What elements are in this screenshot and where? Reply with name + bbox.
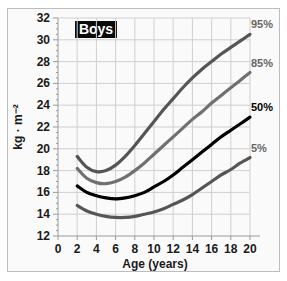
y-tick-label: 30 bbox=[37, 33, 51, 47]
percentile-line-85 bbox=[77, 73, 250, 184]
x-tick-label: 14 bbox=[186, 242, 200, 256]
y-tick-label: 16 bbox=[37, 185, 51, 199]
percentile-line-50 bbox=[77, 117, 250, 199]
percentile-label-95: 95% bbox=[251, 18, 273, 30]
y-tick-label: 12 bbox=[37, 229, 51, 243]
x-axis-label: Age (years) bbox=[122, 257, 187, 271]
y-tick-label: 26 bbox=[37, 76, 51, 90]
x-tick-label: 8 bbox=[131, 242, 138, 256]
x-tick-label: 4 bbox=[93, 242, 100, 256]
percentile-label-85: 85% bbox=[251, 57, 273, 69]
y-tick-label: 18 bbox=[37, 164, 51, 178]
y-tick-label: 32 bbox=[37, 11, 51, 25]
x-tick-label: 2 bbox=[74, 242, 81, 256]
x-tick-label: 20 bbox=[243, 242, 257, 256]
x-tick-label: 10 bbox=[147, 242, 161, 256]
y-tick-label: 20 bbox=[37, 142, 51, 156]
x-tick-label: 16 bbox=[205, 242, 219, 256]
y-tick-label: 22 bbox=[37, 120, 51, 134]
y-tick-label: 14 bbox=[37, 207, 51, 221]
x-tick-label: 12 bbox=[167, 242, 181, 256]
bmi-chart: 121416182022242628303202468101214161820 … bbox=[0, 0, 287, 281]
percentile-line-5 bbox=[77, 158, 250, 218]
x-tick-label: 6 bbox=[112, 242, 119, 256]
grid bbox=[58, 18, 250, 236]
y-axis-label: kg · m⁻² bbox=[11, 104, 25, 149]
percentile-labels: 95%85%50%5% bbox=[251, 18, 273, 153]
axes bbox=[53, 18, 260, 240]
x-tick-label: 0 bbox=[55, 242, 62, 256]
percentile-label-5: 5% bbox=[251, 142, 267, 154]
x-tick-label: 18 bbox=[224, 242, 238, 256]
y-tick-label: 24 bbox=[37, 98, 51, 112]
y-tick-label: 28 bbox=[37, 55, 51, 69]
percentile-label-50: 50% bbox=[251, 101, 273, 113]
percentile-line-95 bbox=[77, 34, 250, 172]
